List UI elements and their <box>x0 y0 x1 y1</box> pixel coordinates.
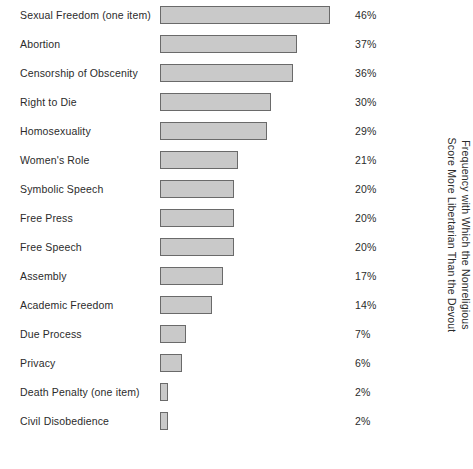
bar-track <box>160 238 340 256</box>
bar-track <box>160 354 340 372</box>
bar-track <box>160 122 340 140</box>
bar-row: Privacy6% <box>0 348 410 377</box>
bar-row-label: Censorship of Obscenity <box>20 67 138 79</box>
bar-value-label: 6% <box>355 357 395 369</box>
y-axis-title-line-2: Score More Libertarian Than the Devout <box>445 120 459 350</box>
bar-track <box>160 180 340 198</box>
bar-row: Civil Disobedience2% <box>0 406 410 435</box>
bar-track <box>160 325 340 343</box>
bar <box>160 35 297 53</box>
bar-value-label: 20% <box>355 241 395 253</box>
bar <box>160 354 182 372</box>
bar-row-label: Assembly <box>20 270 67 282</box>
bar-track <box>160 296 340 314</box>
bar <box>160 64 293 82</box>
bar-track <box>160 35 340 53</box>
bar-track <box>160 151 340 169</box>
bar-value-label: 37% <box>355 38 395 50</box>
bar <box>160 151 238 169</box>
bar-value-label: 46% <box>355 9 395 21</box>
bar-row: Women's Role21% <box>0 145 410 174</box>
bar-row-label: Academic Freedom <box>20 299 113 311</box>
bar-value-label: 14% <box>355 299 395 311</box>
bar-row: Assembly17% <box>0 261 410 290</box>
bar <box>160 296 212 314</box>
bar-row-label: Death Penalty (one item) <box>20 386 140 398</box>
bar-row-label: Homosexuality <box>20 125 91 137</box>
bar-row: Free Press20% <box>0 203 410 232</box>
bar-value-label: 2% <box>355 386 395 398</box>
bar-row-label: Privacy <box>20 357 55 369</box>
bar-row: Abortion37% <box>0 29 410 58</box>
bar-value-label: 29% <box>355 125 395 137</box>
y-axis-title-line-1: Frequency with Which the Nonreligious <box>459 120 473 350</box>
bar-row-label: Women's Role <box>20 154 90 166</box>
bar-row: Homosexuality29% <box>0 116 410 145</box>
bar-row: Censorship of Obscenity36% <box>0 58 410 87</box>
bar-value-label: 7% <box>355 328 395 340</box>
bar-row: Academic Freedom14% <box>0 290 410 319</box>
bar-value-label: 20% <box>355 212 395 224</box>
bar <box>160 93 271 111</box>
bar-row-label: Due Process <box>20 328 82 340</box>
bar <box>160 209 234 227</box>
bar-value-label: 30% <box>355 96 395 108</box>
bar-track <box>160 93 340 111</box>
bar-row: Free Speech20% <box>0 232 410 261</box>
bar-track <box>160 6 340 24</box>
bar-row-label: Symbolic Speech <box>20 183 103 195</box>
bar-row: Death Penalty (one item)2% <box>0 377 410 406</box>
bar-row: Symbolic Speech20% <box>0 174 410 203</box>
bar <box>160 6 330 24</box>
bar-track <box>160 412 340 430</box>
bar-row-label: Abortion <box>20 38 60 50</box>
bar-track <box>160 267 340 285</box>
bar-track <box>160 64 340 82</box>
bar-value-label: 2% <box>355 415 395 427</box>
bar <box>160 383 168 401</box>
bar-value-label: 20% <box>355 183 395 195</box>
bar-value-label: 17% <box>355 270 395 282</box>
bar-row: Right to Die30% <box>0 87 410 116</box>
bar <box>160 238 234 256</box>
bar-row-label: Civil Disobedience <box>20 415 109 427</box>
bar <box>160 325 186 343</box>
bar-row: Sexual Freedom (one item)46% <box>0 0 410 29</box>
bar-row-label: Free Speech <box>20 241 82 253</box>
bar-value-label: 36% <box>355 67 395 79</box>
bar <box>160 412 168 430</box>
bar-track <box>160 383 340 401</box>
bar <box>160 180 234 198</box>
bar-track <box>160 209 340 227</box>
bar <box>160 122 267 140</box>
bar-rows: Sexual Freedom (one item)46%Abortion37%C… <box>0 0 410 435</box>
bar-row: Due Process7% <box>0 319 410 348</box>
y-axis-title: Frequency with Which the Nonreligious Sc… <box>445 120 473 350</box>
bar-row-label: Free Press <box>20 212 73 224</box>
bar <box>160 267 223 285</box>
bar-row-label: Sexual Freedom (one item) <box>20 9 151 21</box>
bar-value-label: 21% <box>355 154 395 166</box>
bar-row-label: Right to Die <box>20 96 77 108</box>
